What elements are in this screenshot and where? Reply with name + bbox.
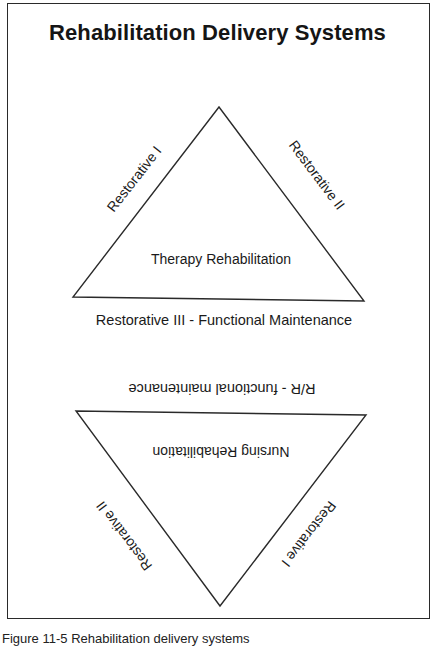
upper-left-side-label: Restorative I [104, 143, 165, 215]
lower-triangle-group: R/R - functional maintenance Nursing Reh… [76, 381, 366, 606]
lower-center-label: Nursing Rehabilitation [153, 444, 290, 460]
lower-left-side-label: Restorative I [278, 498, 339, 570]
upper-center-label: Therapy Rehabilitation [151, 251, 291, 267]
lower-right-side-label: Restorative II [93, 498, 155, 574]
upper-right-side-label: Restorative II [286, 137, 348, 213]
figure-caption: Figure 11-5 Rehabilitation delivery syst… [2, 631, 250, 646]
upper-base-label: Restorative III - Functional Maintenance [96, 312, 352, 328]
lower-base-label: R/R - functional maintenance [129, 381, 316, 397]
